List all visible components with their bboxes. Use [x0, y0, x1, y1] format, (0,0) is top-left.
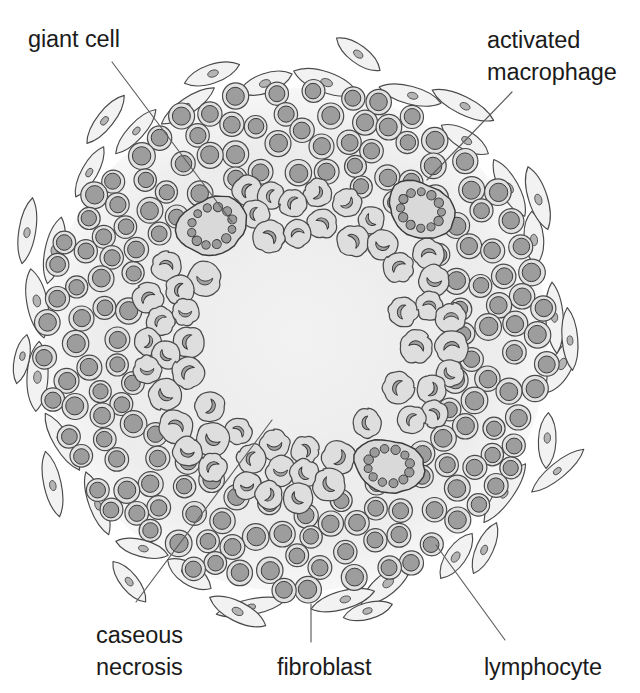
label-line: macrophage: [487, 59, 617, 85]
label-line: fibroblast: [277, 654, 372, 680]
fibroblast-cell: [527, 443, 589, 498]
lymphocyte-cell: [270, 521, 296, 547]
lymphocyte-cell: [469, 275, 492, 298]
lymphocyte-cell: [182, 557, 205, 580]
fibroblast-cell: [428, 82, 497, 128]
lymphocyte-cell: [502, 434, 525, 457]
lymphocyte-cell: [148, 222, 171, 245]
lymphocyte-cell: [302, 80, 325, 103]
lymphocyte-cell: [499, 209, 524, 234]
lymphocyte-cell: [220, 112, 244, 136]
lymphocyte-cell: [420, 533, 443, 556]
lymphocyte-cell: [378, 556, 401, 579]
lymphocyte-cell: [45, 287, 69, 311]
label-line: activated: [487, 27, 580, 53]
lymphocyte-cell: [155, 181, 177, 203]
lymphocyte-cell: [62, 330, 88, 356]
lymphocyte-cell: [431, 426, 457, 452]
leader-line-lymphocyte: [436, 545, 505, 640]
lymphocyte-cell: [345, 511, 369, 535]
lymphocyte-cell: [90, 403, 114, 427]
label-activated-macrophage: activatedmacrophage: [487, 27, 617, 85]
lymphocyte-cell: [399, 551, 423, 575]
fibroblast-cell: [331, 31, 385, 78]
lymphocyte-cell: [165, 530, 192, 557]
lymphocyte-cell: [105, 448, 129, 472]
lymphocyte-cell: [146, 446, 170, 470]
granuloma-figure: giant cellactivatedmacrophagecaseousnecr…: [0, 0, 640, 693]
lymphocyte-cell: [129, 143, 156, 170]
lymphocyte-cell: [41, 388, 64, 411]
lymphocyte-cell: [484, 474, 508, 498]
lymphocyte-cell: [86, 479, 109, 502]
lymphocyte-cell: [122, 262, 144, 284]
lymphocyte-cell: [69, 306, 94, 331]
label-line: giant cell: [28, 26, 120, 52]
lymphocyte-cell: [124, 237, 148, 261]
lymphocyte-cell: [198, 102, 222, 126]
lymphocyte-cell: [318, 103, 344, 129]
lymphocyte-cell: [387, 523, 411, 547]
lymphocyte-cell: [445, 507, 471, 533]
lymphocyte-cell: [77, 355, 102, 380]
lymphocyte-cell: [396, 131, 418, 153]
lymphocyte-cell: [422, 127, 448, 153]
lymphocyte-cell: [300, 526, 322, 548]
lymphocyte-cell: [62, 394, 88, 420]
lymphocyte-cell: [535, 352, 560, 377]
lymphocyte-cell: [227, 560, 253, 586]
fibroblast-cell: [537, 412, 557, 469]
lymphocyte-cell: [242, 524, 269, 551]
lymphocyte-cell: [492, 264, 516, 288]
label-line: necrosis: [96, 654, 183, 680]
lymphocyte-cell: [210, 508, 235, 533]
lymphocyte-cell: [105, 327, 130, 352]
lymphocyte-cell: [519, 259, 546, 286]
lymphocyte-cell: [33, 345, 57, 369]
lymphocyte-cell: [444, 475, 470, 501]
lymphocyte-cell: [308, 556, 332, 580]
lymphocyte-cell: [421, 153, 447, 179]
fibroblast-cell: [106, 556, 152, 607]
lymphocyte-cell: [244, 116, 267, 139]
lymphocyte-cell: [286, 544, 309, 567]
lymphocyte-cell: [120, 411, 147, 438]
lymphocyte-cell: [345, 155, 367, 177]
lymphocyte-cell: [483, 417, 505, 439]
lymphocyte-cell: [46, 253, 69, 276]
lymphocyte-cell: [457, 234, 482, 259]
lymphocyte-cell: [470, 199, 493, 222]
lymphocyte-cell: [503, 340, 527, 364]
fibroblast-cell: [37, 450, 68, 519]
lymphocyte-cell: [334, 540, 357, 563]
lymphocyte-cell: [106, 193, 130, 217]
lymphocyte-cell: [309, 134, 334, 159]
lymphocyte-cell: [505, 405, 530, 430]
lymphocyte-cell: [461, 387, 488, 414]
lymphocyte-cell: [138, 472, 163, 497]
lymphocyte-cell: [89, 381, 111, 403]
lymphocyte-cell: [481, 239, 505, 263]
lymphocyte-cell: [285, 160, 311, 186]
lymphocyte-cell: [223, 83, 249, 109]
lymphocyte-cell: [295, 576, 322, 603]
lymphocyte-cell: [422, 498, 446, 522]
lymphocyte-cell: [137, 197, 163, 223]
lymphocyte-cell: [531, 296, 556, 321]
lymphocyte-cell: [78, 207, 100, 229]
lymphocyte-cell: [435, 453, 458, 476]
lymphocyte-cell: [139, 519, 161, 541]
lymphocyte-cell: [364, 529, 387, 552]
lymphocyte-cell: [524, 322, 550, 348]
lymphocyte-cell: [35, 310, 61, 336]
lymphocyte-cell: [222, 141, 248, 167]
lymphocyte-cell: [53, 231, 76, 254]
label-caseous-necrosis: caseousnecrosis: [96, 622, 183, 680]
lymphocyte-cell: [197, 142, 223, 168]
label-lymphocyte: lymphocyte: [484, 654, 602, 680]
lymphocyte-cell: [463, 455, 487, 479]
lymphocyte-cell: [93, 296, 116, 319]
lymphocyte-cell: [81, 182, 108, 209]
lymphocyte-cell: [353, 110, 378, 135]
lymphocyte-cell: [197, 530, 220, 553]
